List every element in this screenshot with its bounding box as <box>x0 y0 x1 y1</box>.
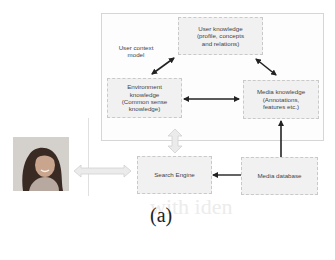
hollow-arrow-user-search <box>74 165 131 177</box>
hollow-arrow-context-search <box>168 129 182 153</box>
figure-caption: (a) <box>150 204 172 227</box>
arrow-environment-user <box>152 58 174 74</box>
arrow-user-media <box>256 59 276 75</box>
